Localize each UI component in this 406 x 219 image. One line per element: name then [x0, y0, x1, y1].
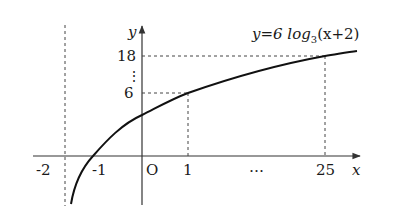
- y-tick-18: 18: [117, 47, 136, 65]
- origin-label: O: [146, 161, 158, 179]
- x-tick-1: 1: [183, 161, 193, 179]
- y-tick-6: 6: [124, 84, 134, 102]
- y-axis-label: y: [127, 23, 137, 41]
- x-axis-label: x: [352, 161, 361, 179]
- x-tick-neg2: -2: [36, 161, 51, 179]
- log-curve: [71, 51, 357, 204]
- x-tick-neg1: -1: [92, 161, 107, 179]
- log-function-graph: y=6 log3(x+2) y x O -2 -1 1 … 25 6 ⋮ 18: [0, 0, 406, 219]
- x-tick-ellipsis: …: [249, 158, 264, 176]
- y-tick-vdots: ⋮: [127, 68, 141, 84]
- function-label: y=6 log3(x+2): [251, 25, 359, 45]
- x-tick-25: 25: [316, 161, 335, 179]
